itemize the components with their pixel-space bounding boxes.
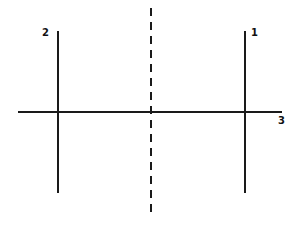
diagram-canvas: 2 1 3 bbox=[0, 0, 300, 225]
label-axis-3: 3 bbox=[278, 116, 285, 126]
label-line-1: 1 bbox=[251, 28, 258, 38]
label-line-2: 2 bbox=[42, 28, 49, 38]
